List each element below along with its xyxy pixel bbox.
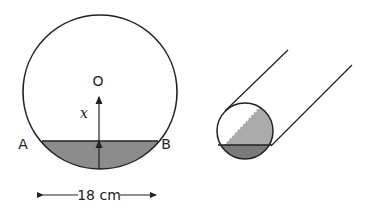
- point-b-label: B: [161, 136, 171, 152]
- center-label: O: [92, 73, 103, 89]
- distance-label: x: [80, 105, 88, 121]
- water-segment: [210, 145, 280, 165]
- pipe-figure: [210, 50, 352, 165]
- pipe-upper-edge: [225, 50, 288, 111]
- point-a-label: A: [18, 136, 28, 152]
- diagram-canvas: O x A B 18 cm: [0, 0, 370, 207]
- pipe-lower-edge: [271, 65, 352, 146]
- width-label: 18 cm: [77, 187, 121, 203]
- circle-figure: O x A B 18 cm: [0, 15, 200, 203]
